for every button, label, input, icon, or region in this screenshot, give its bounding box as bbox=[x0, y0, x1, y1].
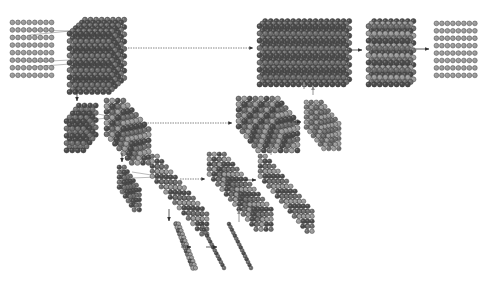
dec2-concat-block bbox=[236, 96, 300, 153]
dec1-conv-block bbox=[366, 19, 416, 87]
dec3-concat-block bbox=[207, 152, 273, 232]
bottleneck-pool-block bbox=[174, 222, 198, 271]
diagram-canvas bbox=[0, 0, 486, 281]
enc1-conv-block bbox=[67, 17, 127, 94]
unet-diagram bbox=[0, 0, 486, 281]
output-grid-block bbox=[434, 21, 477, 78]
enc2-conv-block bbox=[104, 98, 151, 165]
dec1-concat-block bbox=[257, 19, 352, 87]
input-grid-block bbox=[10, 20, 54, 78]
bottleneck-conv-b-block bbox=[227, 222, 253, 270]
dec2-conv-block bbox=[304, 100, 341, 151]
feature-volumes bbox=[10, 17, 477, 270]
enc3-pool-block bbox=[117, 165, 142, 212]
bottleneck-conv-a-block bbox=[199, 222, 226, 270]
enc2-pool-block bbox=[64, 103, 98, 153]
